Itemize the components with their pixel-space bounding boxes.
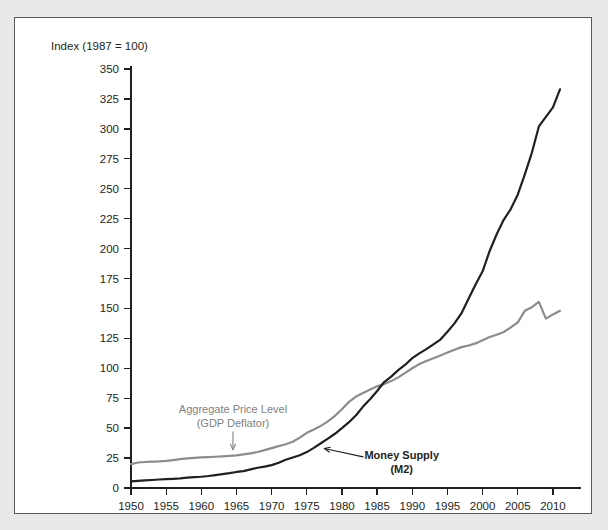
figure-root: Index (1987 = 100) 025507510012515017520…	[0, 0, 608, 530]
y-axis-ticks: 0255075100125150175200225250275300325350	[100, 63, 131, 494]
x-tick-label: 1985	[364, 500, 390, 512]
price-level-annotation-line: (GDP Deflator)	[197, 417, 270, 429]
series-line	[131, 302, 560, 464]
x-tick-label: 1970	[259, 500, 285, 512]
y-tick-label: 0	[113, 482, 119, 494]
y-tick-label: 300	[100, 123, 119, 135]
y-tick-label: 225	[100, 213, 119, 225]
money-supply-annotation-line: Money Supply	[364, 449, 439, 461]
x-tick-label: 1995	[435, 500, 461, 512]
x-axis-ticks: 1950195519601965197019751980198519901995…	[118, 488, 566, 512]
x-tick-label: 1955	[153, 500, 179, 512]
y-tick-label: 75	[106, 392, 119, 404]
axis-title-group: Index (1987 = 100)	[51, 40, 148, 52]
y-axis-title: Index (1987 = 100)	[51, 40, 148, 52]
y-tick-label: 50	[106, 422, 119, 434]
x-tick-label: 1990	[399, 500, 425, 512]
money-supply-annotation-arrow-shaft	[324, 448, 363, 456]
x-tick-label: 2005	[505, 500, 531, 512]
y-tick-label: 25	[106, 452, 119, 464]
y-tick-label: 150	[100, 302, 119, 314]
x-tick-label: 1975	[294, 500, 320, 512]
x-tick-label: 1965	[224, 500, 250, 512]
price-level-annotation-line: Aggregate Price Level	[179, 403, 287, 415]
y-tick-label: 275	[100, 153, 119, 165]
y-tick-label: 175	[100, 273, 119, 285]
series-line	[131, 89, 560, 481]
line-chart: Index (1987 = 100) 025507510012515017520…	[15, 18, 591, 513]
x-tick-label: 1950	[118, 500, 144, 512]
y-tick-label: 100	[100, 362, 119, 374]
y-tick-label: 125	[100, 332, 119, 344]
x-tick-label: 2010	[540, 500, 566, 512]
x-tick-label: 2000	[470, 500, 496, 512]
y-tick-label: 200	[100, 243, 119, 255]
annotations-group: Aggregate Price Level(GDP Deflator)Money…	[179, 403, 440, 476]
y-tick-label: 250	[100, 183, 119, 195]
y-tick-label: 325	[100, 93, 119, 105]
chart-panel: Index (1987 = 100) 025507510012515017520…	[14, 17, 592, 514]
money-supply-annotation-line: (M2)	[390, 463, 413, 475]
x-tick-label: 1960	[189, 500, 215, 512]
y-tick-label: 350	[100, 63, 119, 75]
series-group	[131, 89, 560, 481]
x-tick-label: 1980	[329, 500, 355, 512]
